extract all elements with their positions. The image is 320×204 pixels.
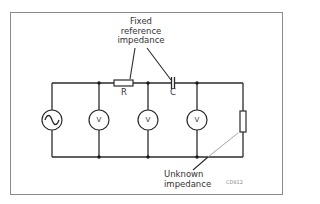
junction-node bbox=[97, 155, 100, 158]
figure-code: CD912 bbox=[226, 179, 243, 185]
capacitor-label: C bbox=[168, 88, 178, 98]
voltmeter-2-label: V bbox=[138, 116, 158, 124]
fixed-reference-label: Fixed reference impedance bbox=[116, 17, 166, 46]
leader-to-resistor bbox=[130, 48, 135, 79]
junction-node bbox=[195, 155, 198, 158]
resistor-label: R bbox=[119, 88, 129, 98]
leader-to-capacitor bbox=[147, 48, 171, 80]
voltmeter-3-label: V bbox=[187, 116, 207, 124]
unknown-impedance bbox=[240, 111, 246, 132]
voltmeter-1-label: V bbox=[89, 116, 109, 124]
leader-to-unknown-upper bbox=[208, 133, 238, 157]
junction-node bbox=[195, 81, 198, 84]
unknown-impedance-label: Unknown impedance bbox=[164, 170, 211, 189]
junction-node bbox=[146, 155, 149, 158]
junction-node bbox=[146, 81, 149, 84]
junction-node bbox=[97, 81, 100, 84]
resistor-R bbox=[114, 80, 133, 86]
